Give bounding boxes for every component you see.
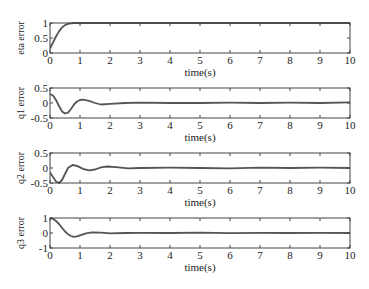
x-tick-label: 1: [77, 54, 83, 66]
x-axis-label: time(s): [184, 131, 215, 144]
y-tick-label: 0: [43, 162, 49, 174]
y-tick-label: 1: [43, 17, 49, 29]
y-axis-label: q1 error: [15, 86, 26, 119]
y-tick-label: -0.5: [31, 177, 49, 189]
x-tick-label: 6: [227, 54, 233, 66]
x-tick-label: 9: [317, 184, 323, 196]
x-tick-label: 8: [287, 249, 293, 261]
x-tick-label: 2: [107, 119, 113, 131]
x-tick-label: 3: [137, 119, 143, 131]
x-tick-label: 4: [167, 184, 173, 196]
x-tick-label: 8: [287, 54, 293, 66]
figure: 01234567891000.51time(s)eta error0123456…: [0, 0, 369, 289]
series-line-eta-error: [50, 23, 350, 49]
x-tick-label: 7: [257, 249, 263, 261]
x-tick-label: 6: [227, 249, 233, 261]
y-tick-label: 0: [43, 227, 49, 239]
subplot-1: 01234567891000.51time(s)eta error: [15, 17, 356, 79]
x-tick-label: 6: [227, 119, 233, 131]
x-tick-label: 9: [317, 249, 323, 261]
x-tick-label: 4: [167, 249, 173, 261]
y-tick-label: 0.5: [34, 147, 48, 159]
y-tick-label: -0.5: [31, 112, 49, 124]
x-tick-label: 1: [77, 119, 83, 131]
x-tick-label: 3: [137, 249, 143, 261]
x-tick-label: 8: [287, 119, 293, 131]
x-tick-label: 5: [197, 249, 203, 261]
axes-box: [50, 23, 350, 53]
x-axis-label: time(s): [184, 196, 215, 209]
x-tick-label: 0: [47, 249, 53, 261]
x-tick-label: 0: [47, 54, 53, 66]
y-tick-label: 1: [43, 212, 49, 224]
x-tick-label: 0: [47, 119, 53, 131]
x-tick-label: 7: [257, 54, 263, 66]
x-tick-label: 2: [107, 249, 113, 261]
x-tick-label: 6: [227, 184, 233, 196]
x-axis-label: time(s): [184, 261, 215, 274]
subplot-4: 012345678910-101time(s)q3 error: [15, 212, 356, 274]
x-tick-label: 1: [77, 249, 83, 261]
y-axis-label: q2 error: [15, 151, 26, 184]
series-line-q1-error: [50, 94, 350, 114]
y-axis-label: q3 error: [15, 216, 26, 249]
x-tick-label: 8: [287, 184, 293, 196]
x-axis-label: time(s): [184, 66, 215, 79]
subplot-3: 012345678910-0.500.5time(s)q2 error: [15, 147, 356, 209]
x-tick-label: 4: [167, 54, 173, 66]
x-tick-label: 3: [137, 184, 143, 196]
x-tick-label: 0: [47, 184, 53, 196]
x-tick-label: 10: [345, 119, 357, 131]
x-tick-label: 10: [345, 54, 357, 66]
y-tick-label: 0.5: [34, 32, 48, 44]
x-tick-label: 7: [257, 184, 263, 196]
x-tick-label: 9: [317, 119, 323, 131]
y-tick-label: 0.5: [34, 82, 48, 94]
x-tick-label: 10: [345, 184, 357, 196]
x-tick-label: 3: [137, 54, 143, 66]
subplot-2: 012345678910-0.500.5time(s)q1 error: [15, 82, 356, 144]
y-tick-label: 0: [43, 97, 49, 109]
y-tick-label: 0: [43, 47, 49, 59]
y-axis-label: eta error: [15, 21, 26, 55]
x-tick-label: 10: [345, 249, 357, 261]
x-tick-label: 2: [107, 184, 113, 196]
x-tick-label: 5: [197, 119, 203, 131]
x-tick-label: 2: [107, 54, 113, 66]
x-tick-label: 5: [197, 184, 203, 196]
x-tick-label: 4: [167, 119, 173, 131]
x-tick-label: 5: [197, 54, 203, 66]
y-tick-label: -1: [39, 242, 48, 254]
x-tick-label: 9: [317, 54, 323, 66]
x-tick-label: 1: [77, 184, 83, 196]
x-tick-label: 7: [257, 119, 263, 131]
